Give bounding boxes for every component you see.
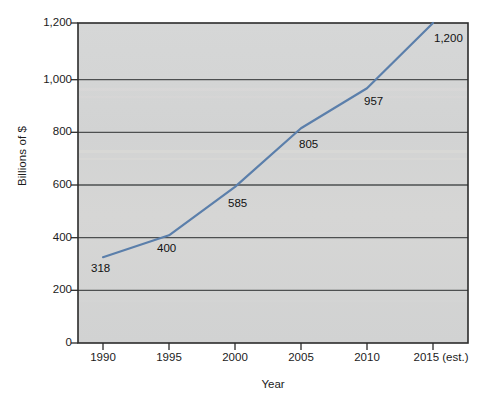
x-tick-2015: 2015 (est.) bbox=[396, 352, 486, 364]
plot-background bbox=[78, 23, 468, 343]
data-label-1200: 1,200 bbox=[434, 33, 463, 45]
data-label-400: 400 bbox=[157, 243, 176, 255]
x-axis-ticks bbox=[103, 343, 433, 350]
data-label-957: 957 bbox=[364, 96, 383, 108]
y-axis-ticks bbox=[71, 23, 78, 343]
y-tick-400: 400 bbox=[0, 238, 72, 239]
y-tick-800: 800 bbox=[0, 132, 72, 133]
y-tick-1200: 1,200 bbox=[0, 23, 72, 24]
y-tick-600: 600 bbox=[0, 185, 72, 186]
y-axis-title: Billions of $ bbox=[16, 96, 28, 216]
y-tick-0: 0 bbox=[0, 343, 72, 344]
line-chart: Billions of $ 1,200 1,000 800 600 400 20… bbox=[0, 0, 496, 411]
data-label-805: 805 bbox=[299, 139, 318, 151]
x-axis-title: Year bbox=[78, 378, 468, 390]
y-tick-200: 200 bbox=[0, 290, 72, 291]
data-label-318: 318 bbox=[91, 263, 110, 275]
chart-canvas bbox=[0, 0, 496, 411]
data-label-585: 585 bbox=[228, 198, 247, 210]
y-tick-1000: 1,000 bbox=[0, 80, 72, 81]
